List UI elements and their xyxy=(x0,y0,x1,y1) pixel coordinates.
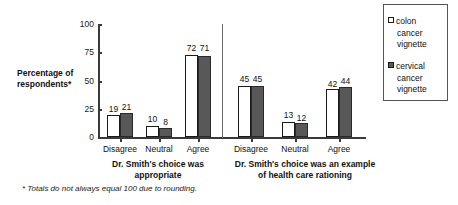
bar-g1-agree-colon xyxy=(326,89,339,137)
x-tick-g1-agree xyxy=(339,138,341,142)
bar-label-g0-agree-cervical: 71 xyxy=(195,44,215,53)
filled-square-icon xyxy=(388,62,394,68)
bar-label-g0-neutral-cervical: 8 xyxy=(156,118,176,127)
y-tick-label-0: 0 xyxy=(60,133,94,142)
bar-g1-neutral-cervical xyxy=(295,123,308,137)
x-tick-g0-disagree xyxy=(120,138,122,142)
chart-footnote: * Totals do not always equal 100 due to … xyxy=(22,184,197,194)
legend-entry-cervical[interactable]: cervical cancer vignette xyxy=(388,55,443,94)
y-tick-label-100: 100 xyxy=(60,20,94,29)
bar-label-g0-disagree-cervical: 21 xyxy=(117,103,137,112)
y-tick-label-75: 75 xyxy=(60,48,94,57)
legend-label-colon-line3: vignette xyxy=(388,39,443,50)
bar-g1-agree-cervical xyxy=(339,87,352,137)
bar-g0-agree-colon xyxy=(185,55,198,137)
legend-label-cervical-line1: cervical xyxy=(396,61,425,71)
bar-g1-disagree-colon xyxy=(238,86,251,137)
bar-g1-disagree-cervical xyxy=(251,86,264,137)
cat-label-g0-agree: Agree xyxy=(173,144,223,154)
y-tick-75 xyxy=(98,52,102,54)
y-tick-0 xyxy=(98,137,102,139)
legend-label-colon-line1: colon xyxy=(396,16,416,26)
chart-legend: colon cancer vignette cervical cancer vi… xyxy=(383,4,448,101)
x-tick-g0-agree xyxy=(198,138,200,142)
group-label-appropriate: Dr. Smith's choice was appropriate xyxy=(96,159,220,181)
bar-label-g1-neutral-cervical: 12 xyxy=(292,114,312,123)
x-tick-g1-disagree xyxy=(251,138,253,142)
x-tick-g0-neutral xyxy=(159,138,161,142)
bar-g0-neutral-colon xyxy=(146,126,159,137)
group-label-appropriate-line1: Dr. Smith's choice was xyxy=(96,159,220,170)
group-separator-line xyxy=(222,24,223,138)
bar-label-g1-agree-cervical: 44 xyxy=(336,77,356,86)
group-label-rationing-line1: Dr. Smith's choice was an example xyxy=(224,159,386,170)
bar-g0-agree-cervical xyxy=(198,56,211,137)
y-tick-50 xyxy=(98,81,102,83)
y-tick-25 xyxy=(98,109,102,111)
bar-label-g1-disagree-cervical: 45 xyxy=(248,75,268,84)
legend-label-cervical-line2: cancer xyxy=(388,73,443,84)
bar-g1-neutral-colon xyxy=(282,122,295,137)
legend-label-cervical-line3: vignette xyxy=(388,84,443,95)
cat-label-g1-neutral: Neutral xyxy=(270,144,320,154)
group-label-rationing: Dr. Smith's choice was an example of hea… xyxy=(224,159,386,181)
open-square-icon xyxy=(388,17,394,23)
bar-g0-neutral-cervical xyxy=(159,128,172,137)
bar-g0-disagree-colon xyxy=(107,115,120,137)
bar-g0-disagree-cervical xyxy=(120,113,133,137)
y-tick-100 xyxy=(98,24,102,26)
cat-label-g1-disagree: Disagree xyxy=(226,144,276,154)
group-label-appropriate-line2: appropriate xyxy=(96,170,220,181)
y-axis-title: Percentage of respondents* xyxy=(17,68,95,90)
y-tick-label-25: 25 xyxy=(60,105,94,114)
legend-label-colon-line2: cancer xyxy=(388,28,443,39)
group-label-rationing-line2: of health care rationing xyxy=(224,170,386,181)
legend-entry-colon[interactable]: colon cancer vignette xyxy=(388,10,443,49)
x-tick-g1-neutral xyxy=(295,138,297,142)
cat-label-g1-agree: Agree xyxy=(314,144,364,154)
bar-chart: 100 75 50 25 0 Percentage of respondents… xyxy=(0,0,458,205)
x-axis-line xyxy=(98,137,366,139)
